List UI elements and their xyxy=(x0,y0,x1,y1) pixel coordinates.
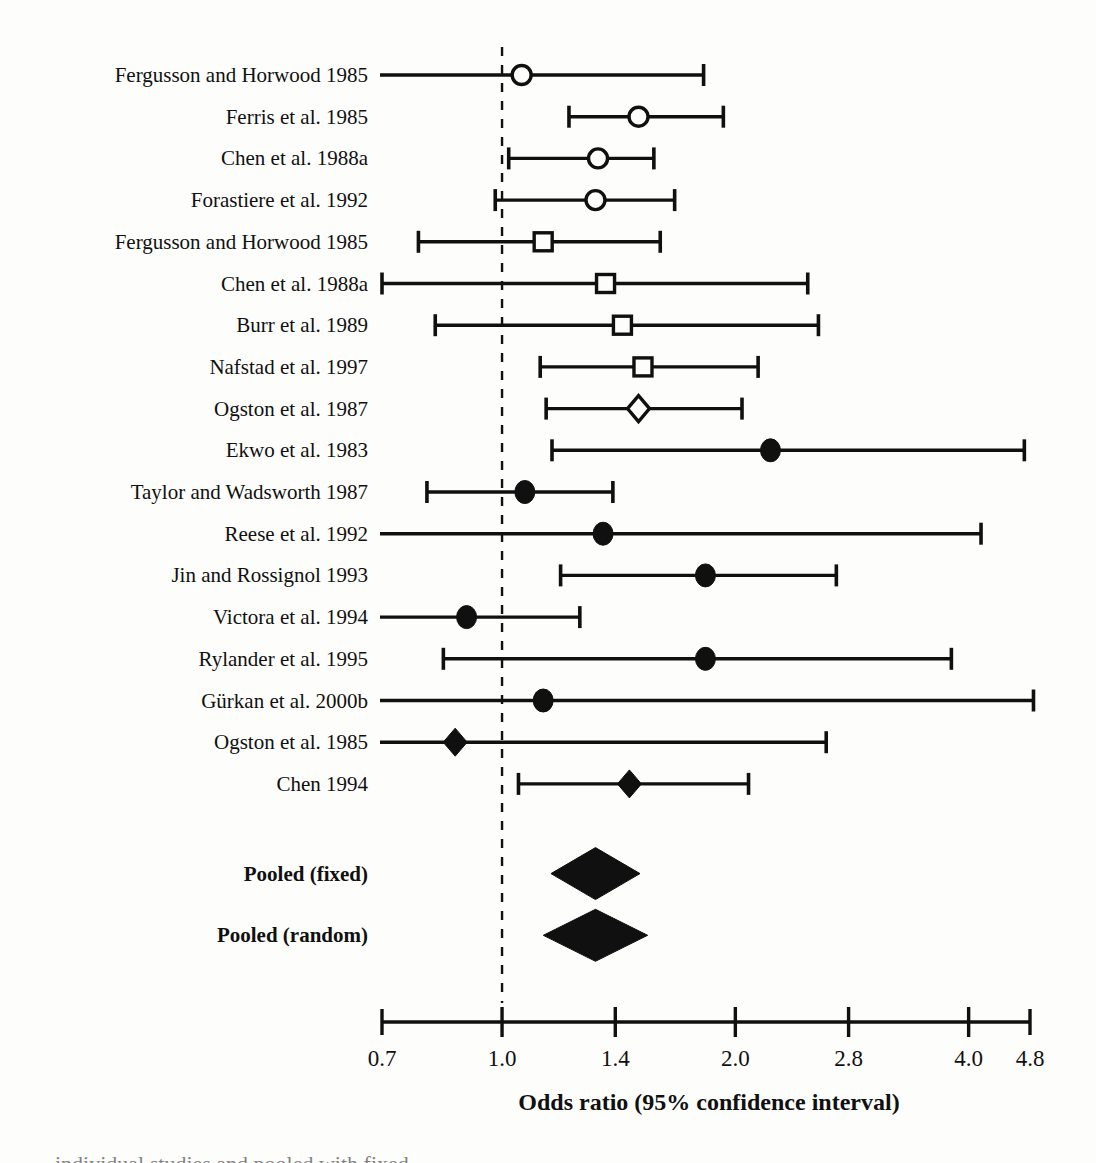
point-estimate-open-circle xyxy=(586,191,605,210)
study-label: Ogston et al. 1985 xyxy=(214,730,368,754)
x-axis: 0.71.01.42.02.84.04.8 xyxy=(368,1007,1045,1071)
study-label: Pooled (fixed) xyxy=(244,862,368,886)
x-axis-title: Odds ratio (95% confidence interval) xyxy=(518,1089,899,1115)
study-label: Fergusson and Horwood 1985 xyxy=(115,230,368,254)
forest-row: Nafstad et al. 1997 xyxy=(209,355,758,379)
axis-tick-label: 2.0 xyxy=(721,1046,750,1071)
study-label: Ekwo et al. 1983 xyxy=(226,438,368,462)
forest-row: Burr et al. 1989 xyxy=(236,313,818,337)
point-estimate-open-circle xyxy=(589,149,608,168)
point-estimate-filled-circle xyxy=(760,439,780,462)
point-estimate-filled-diamond xyxy=(617,770,641,798)
study-label: Reese et al. 1992 xyxy=(225,522,368,546)
forest-row: Chen et al. 1988a xyxy=(221,146,654,170)
point-estimate-filled-circle xyxy=(457,606,477,629)
point-estimate-filled-circle xyxy=(515,481,535,504)
forest-row: Forastiere et al. 1992 xyxy=(191,188,675,212)
forest-row: Ogston et al. 1987 xyxy=(214,396,742,422)
pooled-diamond-marker xyxy=(551,848,640,900)
study-label: Forastiere et al. 1992 xyxy=(191,188,368,212)
axis-tick-label: 4.8 xyxy=(1016,1046,1045,1071)
point-estimate-open-square xyxy=(634,358,652,376)
study-label: Chen 1994 xyxy=(276,772,368,796)
point-estimate-open-circle xyxy=(512,66,531,85)
study-label: Gürkan et al. 2000b xyxy=(201,689,368,713)
study-label: Taylor and Wadsworth 1987 xyxy=(131,480,368,504)
axis-tick-label: 1.4 xyxy=(601,1046,630,1071)
forest-row: Pooled (fixed) xyxy=(244,848,640,900)
forest-row: Ferris et al. 1985 xyxy=(226,105,724,129)
point-estimate-open-square xyxy=(534,233,552,251)
study-label: Nafstad et al. 1997 xyxy=(209,355,368,379)
point-estimate-filled-diamond xyxy=(443,728,467,756)
forest-row: Gürkan et al. 2000b xyxy=(201,689,1033,713)
axis-tick-label: 2.8 xyxy=(834,1046,863,1071)
axis-tick-label: 4.0 xyxy=(954,1046,983,1071)
study-label: Jin and Rossignol 1993 xyxy=(171,563,368,587)
forest-row: Taylor and Wadsworth 1987 xyxy=(131,480,613,504)
study-label: Ferris et al. 1985 xyxy=(226,105,368,129)
forest-row: Ogston et al. 1985 xyxy=(214,728,826,756)
point-estimate-open-diamond xyxy=(628,396,650,422)
axis-tick-label: 0.7 xyxy=(368,1046,397,1071)
study-label: Burr et al. 1989 xyxy=(236,313,368,337)
forest-row: Rylander et al. 1995 xyxy=(199,647,952,671)
study-label: Rylander et al. 1995 xyxy=(199,647,368,671)
forest-row: Chen 1994 xyxy=(276,770,748,798)
pooled-diamond-marker xyxy=(543,909,647,961)
point-estimate-filled-circle xyxy=(593,522,613,545)
study-label: Chen et al. 1988a xyxy=(221,272,369,296)
forest-row: Pooled (random) xyxy=(217,909,648,961)
axis-tick-label: 1.0 xyxy=(488,1046,517,1071)
point-estimate-filled-circle xyxy=(695,647,715,670)
study-label: Pooled (random) xyxy=(217,923,368,947)
study-label: Chen et al. 1988a xyxy=(221,146,369,170)
forest-row: Fergusson and Horwood 1985 xyxy=(115,230,661,254)
page-bleed-text: individual studies and pooled with fixed xyxy=(55,1153,485,1163)
study-label: Fergusson and Horwood 1985 xyxy=(115,63,368,87)
forest-row: Reese et al. 1992 xyxy=(225,522,981,546)
point-estimate-filled-circle xyxy=(695,564,715,587)
forest-plot-canvas: Fergusson and Horwood 1985Ferris et al. … xyxy=(0,0,1096,1163)
forest-plot-figure: Fergusson and Horwood 1985Ferris et al. … xyxy=(0,0,1096,1163)
forest-row: Chen et al. 1988a xyxy=(221,272,808,296)
point-estimate-filled-circle xyxy=(533,689,553,712)
forest-row: Ekwo et al. 1983 xyxy=(226,438,1025,462)
point-estimate-open-circle xyxy=(629,107,648,126)
forest-row: Victora et al. 1994 xyxy=(213,605,580,629)
study-label: Ogston et al. 1987 xyxy=(214,397,368,421)
point-estimate-open-square xyxy=(613,316,631,334)
study-label: Victora et al. 1994 xyxy=(213,605,369,629)
point-estimate-open-square xyxy=(597,275,615,293)
forest-row: Fergusson and Horwood 1985 xyxy=(115,63,704,87)
forest-row: Jin and Rossignol 1993 xyxy=(171,563,836,587)
